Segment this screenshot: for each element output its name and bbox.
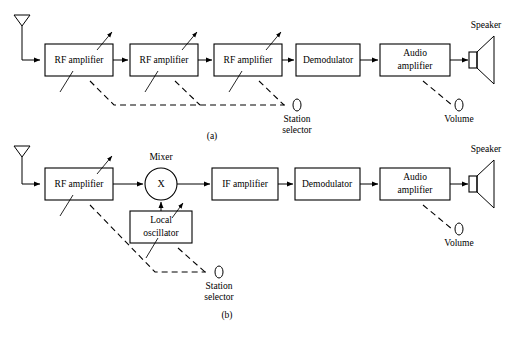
speaker-icon-b [469,160,494,208]
tuning-linkage-a-branch3 [259,81,284,105]
mixer-symbol: X [157,178,165,189]
panel-caption-a: (a) [207,131,218,142]
block-label-demodulator-a: Demodulator [303,55,354,65]
block-label-rf-amplifier-3: RF amplifier [224,55,274,65]
block-label-demodulator-b: Demodulator [302,179,353,189]
block-diagram-svg: RF amplifier RF amplifier RF amplifier D… [0,0,511,337]
tuning-linkage-b-lo [178,248,205,272]
block-label-local-oscillator-2: oscillator [143,228,179,238]
station-selector-label-a-1: Station [284,114,311,124]
volume-linkage-a [423,81,452,105]
block-label-rf-amplifier-2: RF amplifier [140,55,190,65]
tuning-linkage-a-main [90,81,285,105]
speaker-icon-a [469,36,494,84]
figure-root: RF amplifier RF amplifier RF amplifier D… [0,0,511,337]
antenna-icon-a [14,15,40,60]
station-selector-label-b-1: Station [206,281,233,291]
block-label-audio-amplifier-a-1: Audio [403,48,427,58]
block-label-audio-amplifier-b-1: Audio [403,172,427,182]
speaker-label-a: Speaker [471,20,502,30]
block-label-local-oscillator-1: Local [150,215,172,225]
antenna-icon-b [14,146,40,184]
station-selector-label-b-2: selector [204,292,234,302]
block-label-rf-amplifier-b: RF amplifier [55,179,105,189]
volume-knob-b[interactable] [455,223,463,235]
tuning-linkage-a-branch2 [175,81,200,105]
volume-knob-a[interactable] [455,99,463,111]
mixer-node: X [145,168,177,200]
block-label-if-amplifier: IF amplifier [222,179,268,189]
volume-linkage-b [423,205,452,229]
station-selector-knob-b[interactable] [215,266,223,278]
block-label-rf-amplifier-1: RF amplifier [55,55,105,65]
volume-label-a: Volume [444,114,473,124]
panel-caption-b: (b) [221,310,232,321]
mixer-label: Mixer [149,152,173,162]
speaker-label-b: Speaker [471,144,502,154]
volume-label-b: Volume [444,238,473,248]
station-selector-label-a-2: selector [282,125,312,135]
station-selector-knob-a[interactable] [293,99,301,111]
block-label-audio-amplifier-a-2: amplifier [398,61,434,71]
block-label-audio-amplifier-b-2: amplifier [398,185,434,195]
